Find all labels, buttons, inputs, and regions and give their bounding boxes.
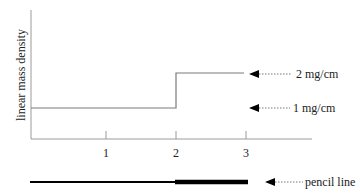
- annotation-high: 2 mg/cm: [249, 67, 339, 81]
- x-tick-label-2: 2: [173, 146, 179, 160]
- annotation-pencil-label: pencil line: [305, 175, 355, 189]
- annotation-low-label: 1 mg/cm: [293, 101, 336, 115]
- arrowhead-icon: [265, 178, 275, 186]
- x-tick-label-1: 1: [103, 146, 109, 160]
- density-step-line: [31, 73, 244, 108]
- y-axis-label: linear mass density: [14, 29, 28, 121]
- x-tick-label-3: 3: [243, 146, 249, 160]
- arrowhead-icon: [249, 104, 259, 112]
- annotation-pencil: pencil line: [265, 175, 355, 189]
- chart-canvas: 1 2 3 linear mass density 2 mg/cm 1 mg/c…: [0, 0, 360, 196]
- annotation-high-label: 2 mg/cm: [296, 67, 339, 81]
- arrowhead-icon: [249, 70, 259, 78]
- annotation-low: 1 mg/cm: [249, 101, 336, 115]
